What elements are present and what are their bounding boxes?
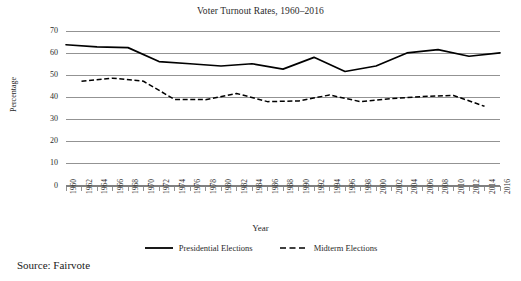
series-line-presidential	[66, 45, 500, 72]
x-tick-label: 1964	[100, 179, 109, 194]
x-tick-label: 2004	[410, 179, 419, 194]
x-tick-label: 2002	[395, 179, 404, 194]
x-tick-label: 1978	[209, 179, 218, 194]
series-line-midterm	[82, 78, 485, 106]
y-tick-label: 60	[30, 48, 58, 57]
x-tick-label: 1986	[271, 179, 280, 194]
legend-item-midterm: Midterm Elections	[279, 243, 378, 253]
x-tick-label: 1994	[333, 179, 342, 194]
y-tick-label: 30	[30, 114, 58, 123]
plot-area	[0, 0, 521, 281]
y-tick-label: 50	[30, 70, 58, 79]
y-tick-label: 70	[30, 26, 58, 35]
legend-item-presidential: Presidential Elections	[144, 243, 253, 253]
x-tick-label: 1976	[193, 179, 202, 194]
legend-label-presidential: Presidential Elections	[179, 243, 253, 253]
x-tick-label: 1984	[255, 179, 264, 194]
x-tick-label: 1988	[286, 179, 295, 194]
y-tick-label: 10	[30, 158, 58, 167]
x-tick-label: 1992	[317, 179, 326, 194]
y-tick-label: 0	[30, 181, 58, 190]
gridlines	[66, 31, 500, 186]
x-tick-label: 1962	[85, 179, 94, 194]
x-tick-label: 1972	[162, 179, 171, 194]
solid-line-icon	[144, 244, 174, 252]
source-note: Source: Fairvote	[17, 259, 90, 271]
x-tick-label: 2000	[379, 179, 388, 194]
chart-figure: Voter Turnout Rates, 1960–2016 Percentag…	[0, 0, 521, 281]
y-tick-label: 20	[30, 136, 58, 145]
x-tick-label: 1970	[147, 179, 156, 194]
x-tick-label: 1974	[178, 179, 187, 194]
dashed-line-icon	[279, 244, 309, 252]
x-tick-label: 2006	[426, 179, 435, 194]
x-tick-label: 2016	[503, 179, 512, 194]
x-tick-label: 1996	[348, 179, 357, 194]
y-tick-label: 40	[30, 92, 58, 101]
x-tick-label: 2014	[488, 179, 497, 194]
x-tick-label: 1982	[240, 179, 249, 194]
x-tick-label: 1998	[364, 179, 373, 194]
x-tick-label: 1966	[116, 179, 125, 194]
x-tick-label: 1960	[69, 179, 78, 194]
legend-label-midterm: Midterm Elections	[314, 243, 378, 253]
x-tick-label: 1980	[224, 179, 233, 194]
x-tick-label: 2008	[441, 179, 450, 194]
x-tick-label: 1990	[302, 179, 311, 194]
x-tick-label: 2012	[472, 179, 481, 194]
x-tick-label: 2010	[457, 179, 466, 194]
chart-legend: Presidential Elections Midterm Elections	[0, 243, 521, 253]
x-tick-label: 1968	[131, 179, 140, 194]
